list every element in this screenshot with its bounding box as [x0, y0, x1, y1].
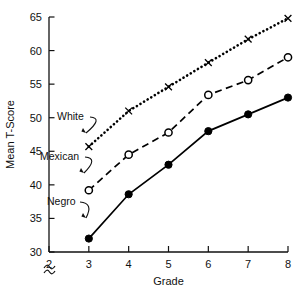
line-chart: 30354045505560652345678GradeMean T-Score…: [0, 0, 296, 288]
series-marker-negro: [245, 111, 252, 118]
chart-figure: 30354045505560652345678GradeMean T-Score…: [0, 0, 296, 288]
x-tick-label: 4: [126, 258, 132, 270]
series-marker-negro: [284, 94, 291, 101]
series-marker-mexican: [284, 54, 291, 61]
series-marker-white: [165, 83, 172, 90]
y-tick-label: 35: [30, 212, 42, 224]
x-tick-label: 3: [86, 258, 92, 270]
y-tick-label: 50: [30, 112, 42, 124]
annotation-arrow-mexican: [84, 157, 92, 173]
y-tick-label: 65: [30, 11, 42, 23]
y-tick-label: 40: [30, 179, 42, 191]
y-axis-title: Mean T-Score: [4, 100, 16, 169]
y-tick-label: 60: [30, 45, 42, 57]
y-tick-label: 30: [30, 246, 42, 258]
series-marker-white: [125, 108, 132, 115]
series-marker-mexican: [85, 187, 92, 194]
series-marker-white: [85, 143, 92, 150]
series-marker-negro: [85, 235, 92, 242]
series-marker-negro: [165, 161, 172, 168]
series-marker-mexican: [245, 77, 252, 84]
annotation-label-white: White: [57, 110, 84, 122]
y-tick-label: 55: [30, 78, 42, 90]
x-tick-label: 5: [165, 258, 171, 270]
annotation-label-mexican: Mexican: [40, 150, 79, 162]
x-tick-label: 6: [205, 258, 211, 270]
series-marker-mexican: [125, 151, 132, 158]
y-axis-break-icon-2: [44, 270, 55, 274]
annotation-label-negro: Negro: [47, 195, 76, 207]
series-marker-white: [205, 59, 212, 66]
x-axis-title: Grade: [153, 275, 184, 287]
x-tick-label: 8: [285, 258, 291, 270]
series-marker-negro: [205, 128, 212, 135]
series-marker-mexican: [165, 129, 172, 136]
series-marker-white: [245, 36, 252, 43]
annotation-arrowhead-white: [81, 128, 86, 133]
series-line-mexican: [89, 57, 288, 190]
annotation-arrowhead-negro: [81, 213, 86, 218]
series-marker-mexican: [205, 91, 212, 98]
annotation-arrow-white: [86, 117, 96, 133]
series-line-white: [89, 18, 288, 146]
series-marker-negro: [125, 191, 132, 198]
annotation-arrowhead-mexican: [79, 168, 84, 173]
x-tick-label: 7: [245, 258, 251, 270]
series-line-negro: [89, 98, 288, 239]
